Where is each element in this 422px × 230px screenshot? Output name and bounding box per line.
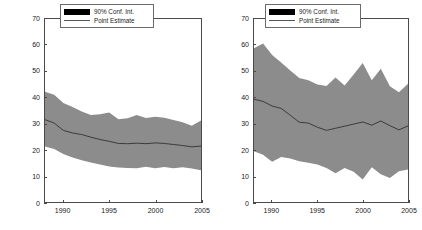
y-tick-label: 10 <box>227 173 249 180</box>
y-tick-label: 50 <box>227 67 249 74</box>
band-swatch-icon <box>269 9 295 15</box>
y-tick-label: 40 <box>227 94 249 101</box>
y-tick-label: 70 <box>18 15 40 22</box>
y-tick-mark <box>44 150 47 151</box>
legend-line-label: Point Estimate <box>299 17 340 24</box>
line-swatch-icon <box>269 20 295 21</box>
y-tick-mark <box>253 97 256 98</box>
confidence-band <box>45 92 201 171</box>
y-tick-label: 20 <box>18 147 40 154</box>
y-tick-label: 30 <box>227 120 249 127</box>
legend-band-label: 90% Conf. Int. <box>94 8 134 15</box>
plot-svg <box>45 19 201 202</box>
plot-svg <box>254 19 408 202</box>
y-tick-mark <box>253 150 256 151</box>
y-tick-mark <box>44 124 47 125</box>
x-tick-label: 1990 <box>256 207 286 214</box>
legend: 90% Conf. Int. Point Estimate <box>60 4 154 28</box>
x-tick-mark <box>317 200 318 203</box>
y-tick-label: 70 <box>227 15 249 22</box>
y-tick-label: 30 <box>18 120 40 127</box>
y-tick-label: 40 <box>18 94 40 101</box>
x-tick-label: 2000 <box>141 207 171 214</box>
legend: 90% Conf. Int. Point Estimate <box>265 4 361 28</box>
x-tick-label: 1990 <box>48 207 78 214</box>
confidence-band <box>254 44 408 180</box>
y-tick-mark <box>253 177 256 178</box>
y-tick-mark <box>44 203 47 204</box>
panel-non-attainment: Non-Attainment Counties Mean PM10 Concen… <box>207 0 413 230</box>
legend-band-label: 90% Conf. Int. <box>299 8 339 15</box>
y-tick-mark <box>253 124 256 125</box>
x-tick-mark <box>202 200 203 203</box>
y-tick-label: 50 <box>18 67 40 74</box>
y-tick-mark <box>253 44 256 45</box>
band-swatch-icon <box>64 9 90 15</box>
y-tick-mark <box>253 18 256 19</box>
x-tick-mark <box>363 200 364 203</box>
line-swatch-icon <box>64 20 90 21</box>
y-tick-mark <box>44 44 47 45</box>
y-tick-mark <box>44 71 47 72</box>
legend-line-label: Point Estimate <box>94 17 135 24</box>
panel-attainment: Attainment Counties Mean PM10 Concentrat… <box>0 0 206 230</box>
x-tick-label: 1995 <box>94 207 124 214</box>
x-tick-mark <box>63 200 64 203</box>
y-tick-mark <box>44 177 47 178</box>
legend-row-band: 90% Conf. Int. <box>269 7 357 16</box>
y-tick-mark <box>253 71 256 72</box>
legend-row-line: Point Estimate <box>269 16 357 25</box>
x-tick-label: 2005 <box>394 207 422 214</box>
y-tick-mark <box>44 97 47 98</box>
plot-area-attainment <box>44 18 202 203</box>
y-tick-label: 60 <box>227 41 249 48</box>
y-tick-mark <box>253 203 256 204</box>
x-tick-label: 1995 <box>302 207 332 214</box>
y-tick-label: 0 <box>18 200 40 207</box>
legend-row-line: Point Estimate <box>64 16 150 25</box>
x-tick-mark <box>271 200 272 203</box>
y-tick-label: 10 <box>18 173 40 180</box>
y-tick-label: 0 <box>227 200 249 207</box>
y-tick-label: 20 <box>227 147 249 154</box>
x-tick-mark <box>409 200 410 203</box>
y-tick-label: 60 <box>18 41 40 48</box>
plot-area-non-attainment <box>253 18 409 203</box>
x-tick-label: 2000 <box>348 207 378 214</box>
x-tick-mark <box>109 200 110 203</box>
x-tick-mark <box>156 200 157 203</box>
y-tick-mark <box>44 18 47 19</box>
legend-row-band: 90% Conf. Int. <box>64 7 150 16</box>
